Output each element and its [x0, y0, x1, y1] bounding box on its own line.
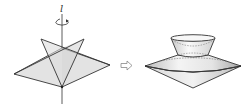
- axis-label: l: [60, 3, 63, 14]
- planar-figure: l: [14, 3, 110, 104]
- rotation-diagram: l: [0, 0, 252, 109]
- rotation-arrow-icon: [56, 19, 69, 25]
- solid-of-revolution: [145, 35, 241, 88]
- hollow-right-arrow-icon: [121, 61, 132, 70]
- cup-rim: [171, 35, 215, 42]
